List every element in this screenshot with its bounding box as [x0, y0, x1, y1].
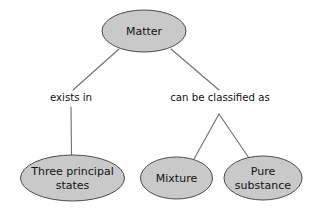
node-pure-substance-shape[interactable] [224, 156, 302, 200]
node-mixture[interactable]: Mixture [141, 157, 213, 199]
node-matter-label: Matter [126, 25, 163, 38]
node-pure-substance-label-line1: Pure [251, 165, 276, 178]
node-pure-substance[interactable]: Pure substance [224, 156, 302, 200]
edge-label-can-be-classified-as: can be classified as [170, 92, 270, 103]
node-three-principal-states-shape[interactable] [21, 155, 125, 201]
node-three-principal-states-label-line1: Three principal [30, 165, 113, 178]
node-three-principal-states-label-line2: states [56, 179, 90, 192]
edge-label-exists-in: exists in [50, 92, 92, 103]
edge-exists-in-to-three-states [71, 107, 72, 157]
concept-map-diagram: Matter exists in can be classified as Th… [0, 0, 315, 219]
node-mixture-label: Mixture [156, 172, 198, 185]
node-three-principal-states[interactable]: Three principal states [21, 155, 125, 201]
node-matter[interactable]: Matter [102, 10, 186, 52]
node-pure-substance-label-line2: substance [235, 179, 291, 192]
